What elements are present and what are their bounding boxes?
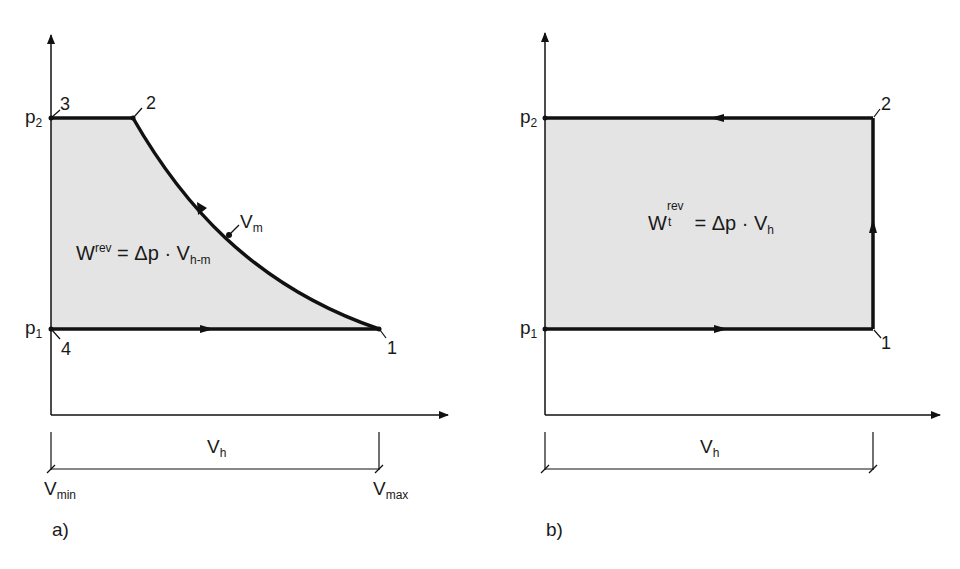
point-3-label: 3 — [60, 95, 70, 113]
vh-label-b: Vh — [700, 437, 719, 456]
vmin-label: Vmin — [44, 479, 76, 498]
caption-a: a) — [52, 520, 69, 539]
vh-label-a: Vh — [207, 437, 226, 456]
work-formula-b: Wrevt = Δp · Vh — [648, 210, 774, 233]
point-2-label-a: 2 — [146, 94, 156, 112]
pv-diagrams — [0, 0, 960, 569]
point-2-label-b: 2 — [881, 95, 891, 113]
p1-label-b: p1 — [520, 318, 537, 337]
work-formula-a: Wrev = Δp · Vh-m — [76, 243, 211, 263]
p2-label-a: p2 — [25, 107, 42, 126]
p2-label-b: p2 — [520, 107, 537, 126]
point-1-label-b: 1 — [881, 334, 891, 352]
point-4-label: 4 — [61, 340, 71, 358]
caption-b: b) — [546, 520, 563, 539]
cycle-area-a — [51, 118, 379, 329]
vmax-label: Vmax — [373, 479, 408, 498]
vm-label: Vm — [240, 212, 263, 231]
p1-label-a: p1 — [25, 318, 42, 337]
point-1-label-a: 1 — [387, 339, 397, 357]
